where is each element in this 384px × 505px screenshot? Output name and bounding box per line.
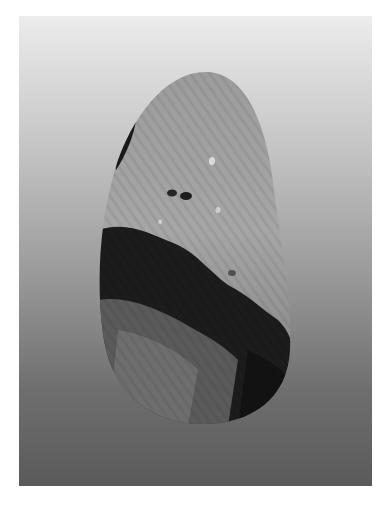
photo — [19, 16, 372, 486]
stone — [98, 70, 292, 426]
